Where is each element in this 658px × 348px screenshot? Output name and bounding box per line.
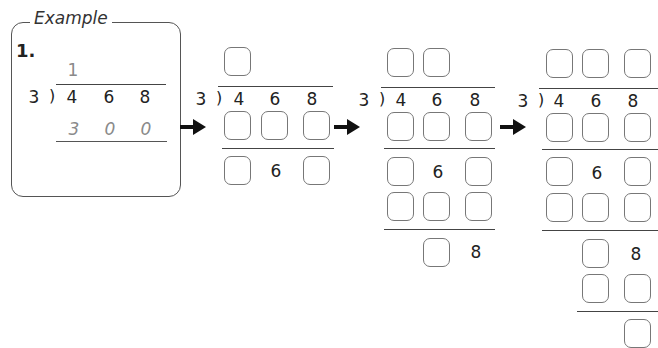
answer-box[interactable] xyxy=(582,193,609,222)
example-panel xyxy=(11,22,181,197)
answer-box[interactable] xyxy=(387,192,414,221)
right-arrow-icon xyxy=(334,119,360,135)
division-bar xyxy=(218,86,333,87)
answer-box[interactable] xyxy=(582,274,609,303)
example-dividend-digit: 8 xyxy=(135,87,155,107)
division-bar xyxy=(539,88,658,89)
example-division-bar xyxy=(56,84,166,85)
divisor: 3 xyxy=(513,91,533,111)
answer-box[interactable] xyxy=(465,192,492,221)
subtraction-line xyxy=(542,149,658,150)
example-quotient-digit: 1 xyxy=(63,60,83,80)
subtraction-line xyxy=(384,229,495,230)
example-title: Example xyxy=(30,8,112,28)
answer-box[interactable] xyxy=(303,111,330,140)
remainder-digit: 8 xyxy=(626,244,646,264)
dividend-digit: 6 xyxy=(265,89,285,109)
answer-box[interactable] xyxy=(387,48,414,77)
dividend-digit: 4 xyxy=(391,90,411,110)
dividend-digit: 8 xyxy=(465,90,485,110)
division-bracket: ) xyxy=(216,88,222,107)
example-subtraction-line xyxy=(56,141,167,142)
answer-box[interactable] xyxy=(582,113,609,142)
answer-box[interactable] xyxy=(224,47,251,76)
answer-box[interactable] xyxy=(224,156,251,185)
answer-box[interactable] xyxy=(582,49,609,78)
answer-box[interactable] xyxy=(465,157,492,186)
division-bracket: ) xyxy=(538,90,544,109)
right-arrow-icon xyxy=(500,119,526,135)
divisor: 3 xyxy=(191,89,211,109)
answer-box[interactable] xyxy=(387,157,414,186)
answer-box[interactable] xyxy=(387,112,414,141)
answer-box[interactable] xyxy=(624,319,651,348)
subtraction-line xyxy=(222,148,334,149)
answer-box[interactable] xyxy=(624,49,651,78)
subtraction-line xyxy=(542,230,658,231)
division-bracket: ) xyxy=(49,86,55,105)
subtraction-line xyxy=(577,311,658,312)
division-bar xyxy=(381,87,495,88)
dividend-digit: 6 xyxy=(427,90,447,110)
division-bracket: ) xyxy=(379,89,385,108)
answer-box[interactable] xyxy=(624,274,651,303)
example-dividend-digit: 6 xyxy=(99,87,119,107)
answer-box[interactable] xyxy=(546,193,573,222)
subtraction-line xyxy=(384,148,495,149)
answer-box[interactable] xyxy=(423,48,450,77)
example-dividend-digit: 4 xyxy=(62,87,82,107)
answer-box[interactable] xyxy=(465,112,492,141)
dividend-digit: 4 xyxy=(229,89,249,109)
right-arrow-icon xyxy=(180,119,206,135)
answer-box[interactable] xyxy=(303,156,330,185)
example-product-digit: 0 xyxy=(100,119,120,139)
answer-box[interactable] xyxy=(546,49,573,78)
answer-box[interactable] xyxy=(224,111,251,140)
divisor: 3 xyxy=(354,90,374,110)
problem-number: 1. xyxy=(16,40,35,61)
answer-box[interactable] xyxy=(582,239,609,268)
answer-box[interactable] xyxy=(261,111,288,140)
remainder-digit: 8 xyxy=(466,242,486,262)
dividend-digit: 6 xyxy=(586,91,606,111)
answer-box[interactable] xyxy=(423,112,450,141)
remainder-digit: 6 xyxy=(587,163,607,183)
answer-box[interactable] xyxy=(624,193,651,222)
example-product-digit: 3 xyxy=(64,119,84,139)
dividend-digit: 8 xyxy=(623,91,643,111)
remainder-digit: 6 xyxy=(428,162,448,182)
answer-box[interactable] xyxy=(423,238,450,267)
answer-box[interactable] xyxy=(546,157,573,186)
remainder-digit: 6 xyxy=(266,161,286,181)
example-product-digit: 0 xyxy=(136,119,156,139)
dividend-digit: 4 xyxy=(549,91,569,111)
answer-box[interactable] xyxy=(624,113,651,142)
dividend-digit: 8 xyxy=(302,89,322,109)
answer-box[interactable] xyxy=(624,157,651,186)
answer-box[interactable] xyxy=(546,113,573,142)
answer-box[interactable] xyxy=(423,192,450,221)
example-divisor: 3 xyxy=(24,87,44,107)
